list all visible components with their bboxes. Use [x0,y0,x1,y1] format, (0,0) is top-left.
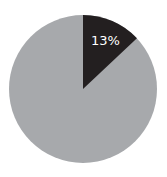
pie-chart [0,0,167,177]
slice-label: 13% [91,34,120,47]
